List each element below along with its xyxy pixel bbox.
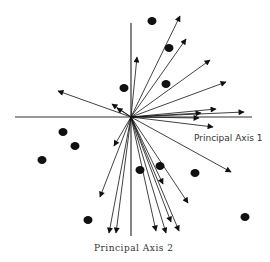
vector-arrow-11 — [131, 117, 231, 172]
vector-arrow-22 — [131, 117, 179, 231]
vector-arrow-12 — [58, 91, 131, 117]
data-point-3 — [165, 44, 174, 52]
data-point-1 — [148, 17, 157, 25]
biplot-diagram: Principal Axis 1 Principal Axis 2 — [0, 0, 270, 262]
vector-arrow-1 — [131, 57, 137, 117]
data-point-9 — [136, 166, 145, 174]
vector-arrow-10 — [131, 117, 213, 127]
data-point-7 — [38, 156, 47, 164]
data-point-10 — [156, 162, 165, 170]
data-point-5 — [59, 128, 68, 136]
vector-arrow-4 — [131, 60, 210, 117]
vector-arrow-23 — [131, 117, 163, 184]
data-point-11 — [191, 169, 200, 177]
observation-points — [38, 17, 250, 224]
vector-arrow-19 — [131, 117, 156, 231]
principal-axis-1-label: Principal Axis 1 — [194, 133, 262, 143]
data-point-4 — [162, 80, 171, 88]
vector-arrow-6 — [131, 109, 216, 117]
data-point-2 — [120, 84, 129, 92]
vector-arrow-24 — [131, 117, 188, 203]
principal-axis-2-label: Principal Axis 2 — [94, 243, 173, 253]
vector-arrow-3 — [131, 39, 186, 117]
vector-arrow-20 — [131, 117, 166, 233]
vector-arrow-16 — [100, 117, 131, 197]
data-point-12 — [241, 213, 250, 221]
vector-arrow-17 — [109, 117, 131, 233]
loading-vectors — [58, 16, 244, 233]
vector-arrow-18 — [116, 117, 131, 233]
data-point-8 — [84, 216, 93, 224]
data-point-6 — [71, 142, 80, 150]
